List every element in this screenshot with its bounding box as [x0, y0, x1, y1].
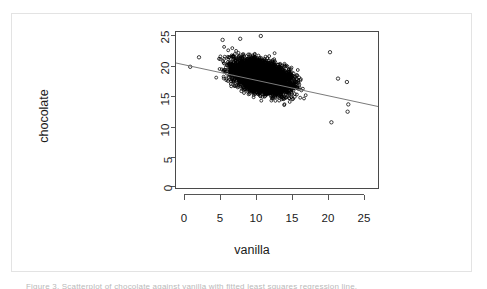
y-tick-label-25: 25 [159, 26, 171, 48]
x-tick-label-0: 0 [173, 212, 195, 224]
figure-frame: chocolate vanilla 25 20 15 10 5 0 0 5 10… [11, 13, 472, 272]
plot-canvas [12, 14, 473, 273]
y-tick-label-0: 0 [162, 177, 174, 199]
x-axis-title: vanilla [202, 243, 302, 257]
scatter-plot: chocolate vanilla 25 20 15 10 5 0 0 5 10… [12, 14, 473, 273]
y-axis-title: chocolate [37, 66, 51, 166]
y-tick-label-20: 20 [159, 57, 171, 79]
y-tick-label-5: 5 [162, 149, 174, 171]
x-tick-label-20: 20 [317, 212, 339, 224]
scatter-point-cloud [189, 34, 350, 124]
figure-caption: Figure 3. Scatterplot of chocolate again… [26, 281, 426, 289]
y-tick-label-10: 10 [159, 119, 171, 141]
y-tick-label-15: 15 [159, 88, 171, 110]
x-tick-label-5: 5 [209, 212, 231, 224]
x-axis [184, 195, 364, 201]
x-tick-label-15: 15 [281, 212, 303, 224]
x-tick-label-10: 10 [245, 212, 267, 224]
x-tick-label-25: 25 [353, 212, 375, 224]
